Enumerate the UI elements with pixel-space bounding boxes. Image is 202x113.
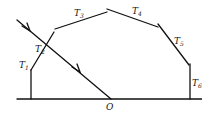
label-t3: T3 <box>74 8 84 19</box>
label-t2: T2 <box>35 44 45 55</box>
label-t6: T6 <box>192 78 202 89</box>
label-t4: T4 <box>132 6 142 17</box>
label-origin: O <box>106 102 114 112</box>
diagram-canvas: T1 T2 T3 T4 T5 T6 O <box>0 0 202 113</box>
label-t5: T5 <box>174 36 184 47</box>
label-t1: T1 <box>19 60 29 71</box>
arrow-icon <box>72 64 80 72</box>
